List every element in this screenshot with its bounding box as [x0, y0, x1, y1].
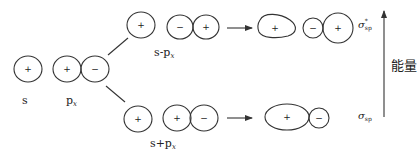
minus-sign: − — [91, 64, 99, 74]
plus-sign: + — [271, 23, 279, 33]
plus-sign: + — [202, 22, 210, 32]
s-minus-px-label: s-px — [154, 46, 174, 60]
combination-s-minus-px: + − + — [127, 12, 219, 39]
plus-sign: + — [173, 113, 181, 123]
s-label: s — [22, 94, 28, 107]
orbital-diagram: + s + − px + − + s-px + + − s+px + − — [0, 0, 419, 156]
antibonding-orbital: + − + — [258, 13, 353, 43]
px-orbital: + − — [53, 56, 109, 82]
energy-label: 能量 — [391, 58, 417, 73]
plus-sign: + — [334, 23, 342, 33]
plus-sign: + — [137, 20, 145, 30]
px-label: px — [66, 94, 77, 108]
bonding-orbital: + − — [265, 104, 329, 130]
plus-sign: + — [63, 64, 71, 74]
branch-line-upper — [108, 38, 128, 55]
minus-sign: − — [176, 22, 184, 32]
minus-sign: − — [315, 113, 323, 123]
minus-sign: − — [309, 23, 317, 33]
plus-sign: + — [134, 114, 142, 124]
branch-line-lower — [106, 86, 125, 102]
sigma-star-label: σ*sp — [358, 17, 372, 32]
s-orbital: + — [14, 56, 42, 82]
s-plus-px-label: s+px — [150, 137, 176, 151]
combination-s-plus-px: + + − — [124, 105, 218, 132]
plus-sign: + — [24, 64, 32, 74]
minus-sign: − — [200, 113, 208, 123]
sigma-label: σsp — [358, 110, 372, 123]
plus-sign: + — [283, 112, 291, 122]
